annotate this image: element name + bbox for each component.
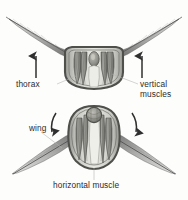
insect-flight-muscle-diagram: thorax vertical muscles wing horizontal … xyxy=(0,0,188,200)
panel-downstroke xyxy=(12,106,176,180)
label-vertical-muscles-line2: muscles xyxy=(140,89,171,99)
left-downstroke-arrow xyxy=(52,113,57,132)
wing-upper-left xyxy=(6,17,71,58)
right-downstroke-arrow xyxy=(132,113,137,132)
label-thorax: thorax xyxy=(16,80,40,90)
thorax-downstroke xyxy=(68,106,119,169)
label-horizontal-muscle: horizontal muscle xyxy=(53,181,119,191)
diagram-artwork xyxy=(0,0,188,200)
thorax-upstroke xyxy=(65,47,123,89)
label-vertical-muscles: vertical muscles xyxy=(140,80,186,99)
label-vertical-muscles-line1: vertical xyxy=(140,79,167,89)
label-wing: wing xyxy=(29,124,46,134)
wing-upper-right xyxy=(117,17,182,58)
